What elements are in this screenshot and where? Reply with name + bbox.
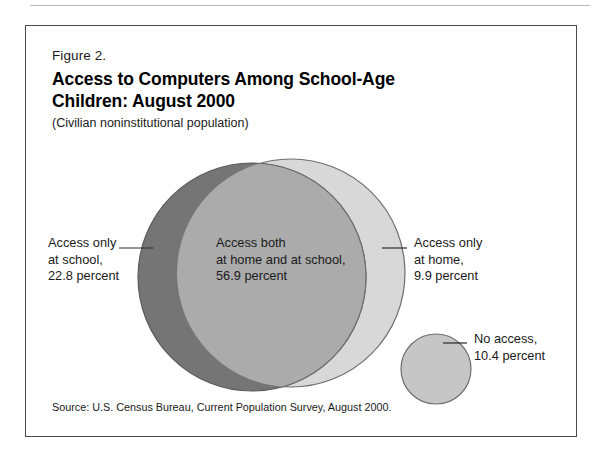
figure-frame: Figure 2. Access to Computers Among Scho… <box>25 25 577 437</box>
figure-subtitle: (Civilian noninstitutional population) <box>52 116 249 130</box>
label-no-access-line-2: 10.4 percent <box>474 348 545 365</box>
figure-title-line-2: Children: August 2000 <box>52 90 522 112</box>
label-both-line-1: Access both <box>216 235 345 252</box>
top-rule-divider <box>30 5 590 6</box>
label-home-line-3: 9.9 percent <box>414 268 482 285</box>
label-both-line-3: 56.9 percent <box>216 268 345 285</box>
figure-number: Figure 2. <box>52 48 106 63</box>
label-access-both: Access both at home and at school, 56.9 … <box>216 235 345 285</box>
page-title: Access to Computers Among School-Age Chi… <box>52 68 522 112</box>
label-school-line-1: Access only <box>48 235 119 252</box>
source-note: Source: U.S. Census Bureau, Current Popu… <box>52 401 392 413</box>
label-access-only-at-school: Access only at school, 22.8 percent <box>48 235 119 285</box>
label-both-line-2: at home and at school, <box>216 252 345 269</box>
figure-page: Figure 2. Access to Computers Among Scho… <box>0 0 602 458</box>
label-school-line-2: at school, <box>48 252 119 269</box>
label-no-access: No access, 10.4 percent <box>474 331 545 364</box>
circle-no-access <box>401 334 471 404</box>
label-home-line-1: Access only <box>414 235 482 252</box>
label-access-only-at-home: Access only at home, 9.9 percent <box>414 235 482 285</box>
label-no-access-line-1: No access, <box>474 331 545 348</box>
label-school-line-3: 22.8 percent <box>48 268 119 285</box>
figure-title-line-1: Access to Computers Among School-Age <box>52 69 395 89</box>
label-home-line-2: at home, <box>414 252 482 269</box>
